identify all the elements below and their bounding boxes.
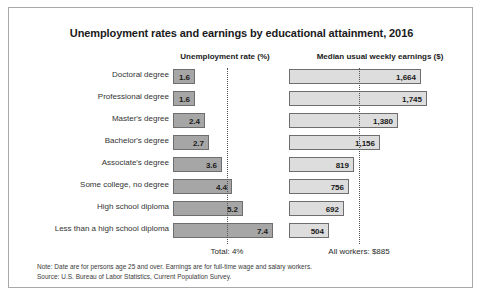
bar-median-earnings: 756	[289, 179, 349, 194]
chart-note: Note: Date are for persons age 25 and ov…	[37, 263, 312, 270]
reference-label-all-workers-earnings: All workers: $885	[299, 247, 419, 256]
chart-frame: Unemployment rates and earnings by educa…	[8, 7, 473, 288]
reference-line-total-unemployment	[227, 68, 228, 244]
chart-row: Associate's degree3.6819	[9, 157, 474, 172]
bar-median-earnings: 692	[289, 201, 344, 216]
reference-label-total-unemployment: Total: 4%	[167, 247, 287, 256]
bar-value-median-earnings: 504	[311, 224, 324, 239]
bar-unemployment-rate: 7.4	[173, 223, 273, 238]
bar-median-earnings: 819	[289, 157, 354, 172]
bar-unemployment-rate: 4.4	[173, 179, 232, 194]
category-label: Master's degree	[9, 114, 169, 123]
bar-median-earnings: 1,745	[289, 91, 427, 106]
category-label: Doctoral degree	[9, 70, 169, 79]
bar-value-median-earnings: 756	[331, 180, 344, 195]
bar-unemployment-rate: 2.7	[173, 135, 209, 150]
category-label: Some college, no degree	[9, 180, 169, 189]
bar-value-median-earnings: 1,380	[373, 114, 393, 129]
category-label: Bachelor's degree	[9, 136, 169, 145]
bar-median-earnings: 1,664	[289, 69, 421, 84]
chart-row: Bachelor's degree2.71,156	[9, 135, 474, 150]
chart-row: Some college, no degree4.4756	[9, 179, 474, 194]
bar-median-earnings: 1,156	[289, 135, 380, 150]
bar-value-unemployment-rate: 4.4	[216, 180, 227, 195]
reference-line-all-workers-earnings	[359, 68, 360, 244]
bar-value-median-earnings: 819	[336, 158, 349, 173]
chart-row: Less than a high school diploma7.4504	[9, 223, 474, 238]
bar-unemployment-rate: 3.6	[173, 157, 222, 172]
bar-value-unemployment-rate: 7.4	[257, 224, 268, 239]
chart-row: High school diploma5.2692	[9, 201, 474, 216]
category-label: Less than a high school diploma	[9, 224, 169, 233]
bar-value-unemployment-rate: 5.2	[227, 202, 238, 217]
bar-value-median-earnings: 692	[326, 202, 339, 217]
bar-value-median-earnings: 1,664	[396, 70, 416, 85]
bar-value-median-earnings: 1,156	[355, 136, 375, 151]
category-label: High school diploma	[9, 202, 169, 211]
bar-median-earnings: 1,380	[289, 113, 398, 128]
category-label: Professional degree	[9, 92, 169, 101]
chart-source: Source: U.S. Bureau of Labor Statistics,…	[37, 273, 231, 280]
chart-row: Professional degree1.61,745	[9, 91, 474, 106]
bar-value-unemployment-rate: 2.7	[193, 136, 204, 151]
bar-value-unemployment-rate: 3.6	[206, 158, 217, 173]
bar-value-unemployment-rate: 2.4	[189, 114, 200, 129]
bar-unemployment-rate: 1.6	[173, 69, 195, 84]
bar-unemployment-rate: 2.4	[173, 113, 205, 128]
bar-median-earnings: 504	[289, 223, 329, 238]
bar-value-unemployment-rate: 1.6	[179, 92, 190, 107]
bar-value-unemployment-rate: 1.6	[179, 70, 190, 85]
chart-row: Master's degree2.41,380	[9, 113, 474, 128]
category-label: Associate's degree	[9, 158, 169, 167]
chart-row: Doctoral degree1.61,664	[9, 69, 474, 84]
bar-unemployment-rate: 1.6	[173, 91, 195, 106]
bar-value-median-earnings: 1,745	[402, 92, 422, 107]
bar-unemployment-rate: 5.2	[173, 201, 243, 216]
